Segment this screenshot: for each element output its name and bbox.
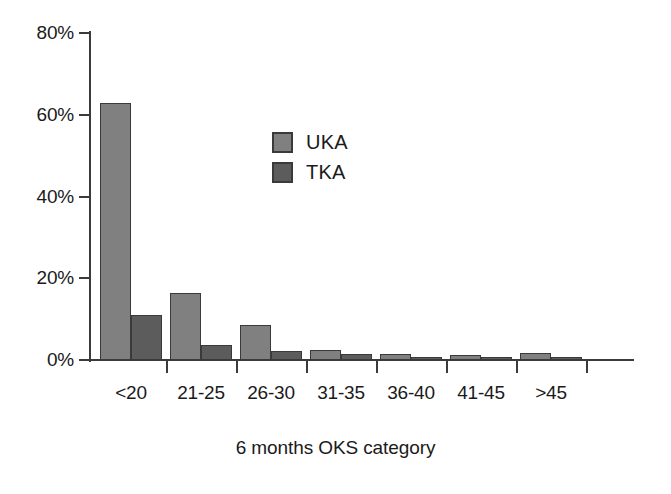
x-tick-label-<20: <20 bbox=[96, 382, 166, 404]
y-tick-label-0: 0% bbox=[0, 350, 74, 369]
x-tick-0 bbox=[166, 361, 168, 373]
x-tick-4 bbox=[446, 361, 448, 373]
bar-tka-21-25 bbox=[201, 345, 232, 360]
bar-uka-31-35 bbox=[310, 350, 341, 360]
legend-item-uka: UKA bbox=[272, 127, 348, 157]
bar-tka-41-45 bbox=[481, 357, 512, 360]
x-tick-label->45: >45 bbox=[516, 382, 586, 404]
chart-legend: UKA TKA bbox=[272, 127, 348, 187]
x-tick-label-41-45: 41-45 bbox=[446, 382, 516, 404]
y-tick-label-60: 60% bbox=[0, 105, 74, 124]
y-tick-40 bbox=[79, 196, 90, 198]
x-tick-label-36-40: 36-40 bbox=[376, 382, 446, 404]
bar-chart: 0%20%40%60%80% <2021-2526-3031-3536-4041… bbox=[0, 0, 671, 494]
y-tick-label-20: 20% bbox=[0, 268, 74, 287]
x-tick-5 bbox=[516, 361, 518, 373]
legend-item-tka: TKA bbox=[272, 157, 348, 187]
legend-label-tka: TKA bbox=[306, 162, 346, 182]
bar-tka-31-35 bbox=[341, 354, 372, 360]
x-tick-3 bbox=[376, 361, 378, 373]
bar-tka->45 bbox=[551, 357, 582, 360]
x-tick-label-26-30: 26-30 bbox=[236, 382, 306, 404]
x-tick-label-21-25: 21-25 bbox=[166, 382, 236, 404]
bar-uka-<20 bbox=[100, 103, 131, 360]
bar-uka-21-25 bbox=[170, 293, 201, 360]
y-tick-label-80: 80% bbox=[0, 23, 74, 42]
y-tick-label-40: 40% bbox=[0, 187, 74, 206]
bar-uka-41-45 bbox=[450, 355, 481, 360]
plot-area bbox=[90, 33, 630, 360]
bar-uka-26-30 bbox=[240, 325, 271, 360]
x-tick-label-31-35: 31-35 bbox=[306, 382, 376, 404]
x-axis-title: 6 months OKS category bbox=[0, 437, 671, 459]
x-tick-1 bbox=[236, 361, 238, 373]
x-tick-2 bbox=[306, 361, 308, 373]
bar-tka-<20 bbox=[131, 315, 162, 360]
legend-swatch-uka-icon bbox=[272, 132, 293, 153]
bar-uka-36-40 bbox=[380, 354, 411, 360]
bar-tka-26-30 bbox=[271, 351, 302, 360]
legend-swatch-tka-icon bbox=[272, 162, 293, 183]
y-tick-20 bbox=[79, 277, 90, 279]
y-tick-60 bbox=[79, 114, 90, 116]
bar-tka-36-40 bbox=[411, 357, 442, 360]
x-tick-6 bbox=[586, 361, 588, 373]
legend-label-uka: UKA bbox=[306, 132, 348, 152]
y-tick-80 bbox=[79, 32, 90, 34]
bar-uka->45 bbox=[520, 353, 551, 360]
